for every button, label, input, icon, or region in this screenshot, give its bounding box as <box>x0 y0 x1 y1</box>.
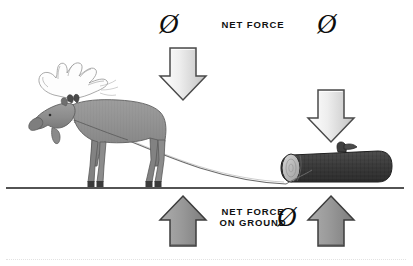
diagram-canvas: NET FORCE NET FORCE ON GROUND Ø Ø Ø <box>0 0 413 266</box>
weight-arrow-log <box>308 90 354 142</box>
empty-set-symbol-top-right: Ø <box>317 11 337 38</box>
top-net-force-label: NET FORCE <box>205 19 301 30</box>
moose <box>29 63 166 187</box>
empty-set-symbol-top-left: Ø <box>159 11 179 38</box>
log <box>281 142 392 184</box>
footer-divider <box>6 259 406 261</box>
normal-arrow-log <box>308 196 354 246</box>
empty-set-symbol-bottom: Ø <box>277 204 297 231</box>
moose-antlers <box>39 63 118 99</box>
weight-arrow-moose <box>160 48 206 100</box>
